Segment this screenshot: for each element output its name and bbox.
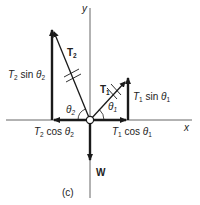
t2-cos-label: T2 cos θ2 [34, 126, 74, 138]
t2-vector [54, 32, 90, 120]
t1-cos-label: T1 cos θ1 [112, 126, 152, 138]
x-axis-label: x [183, 122, 190, 133]
theta1-label: θ1 [108, 101, 117, 113]
theta1-arc [100, 110, 105, 120]
t2-sin-label: T2 sin θ2 [8, 69, 46, 81]
figure-caption: (c) [62, 187, 74, 198]
theta2-arc [78, 109, 86, 120]
y-axis-label: y [81, 3, 88, 14]
t1-sin-label: T1 sin θ1 [133, 91, 171, 103]
t2-label: T2 [67, 47, 77, 59]
origin-point [86, 116, 93, 123]
free-body-diagram: y x T2 T2 sin θ2 T2 cos θ2 θ2 T1 T1 sin … [0, 0, 200, 205]
theta2-label: θ2 [66, 104, 75, 116]
w-label: W [96, 167, 106, 178]
t1-label: T1 [100, 84, 110, 96]
